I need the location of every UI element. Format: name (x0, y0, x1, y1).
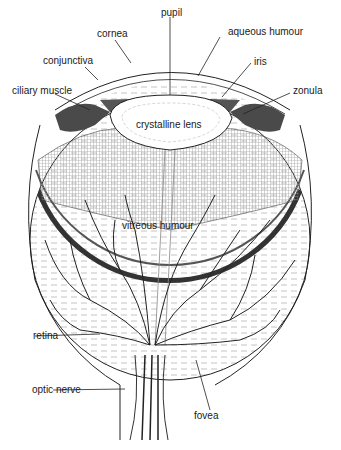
label-vitreous-humour: vitreous humour (122, 221, 194, 231)
label-ciliary-muscle: ciliary muscle (12, 86, 72, 96)
label-conjunctiva: conjunctiva (43, 56, 93, 66)
label-optic-nerve: optic nerve (32, 385, 81, 395)
label-crystalline-lens: crystalline lens (136, 120, 202, 130)
label-retina: retina (33, 331, 58, 341)
label-aqueous-humour: aqueous humour (228, 27, 303, 37)
label-iris: iris (254, 57, 267, 67)
label-zonula: zonula (293, 86, 322, 96)
label-pupil: pupil (161, 8, 182, 18)
label-cornea: cornea (97, 29, 128, 39)
label-fovea: fovea (194, 411, 218, 421)
